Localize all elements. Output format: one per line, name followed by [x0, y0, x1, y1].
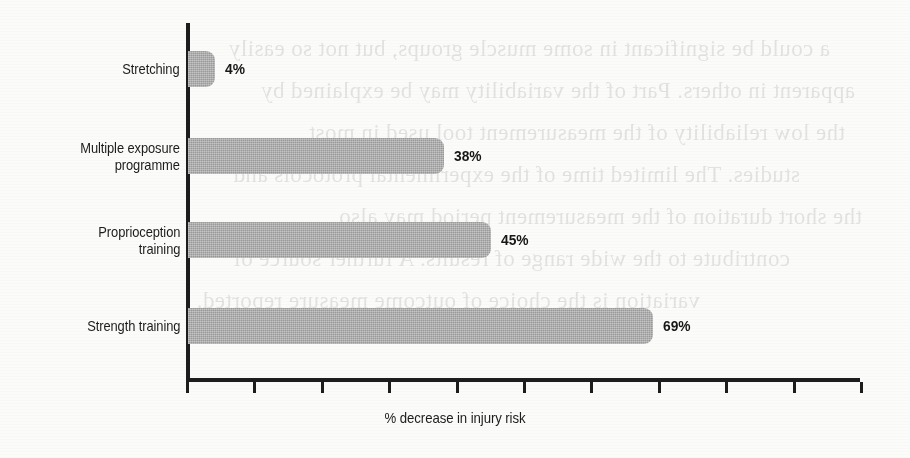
x-axis-tick [793, 382, 796, 393]
x-axis-tick [388, 382, 391, 393]
bar[interactable] [188, 51, 215, 87]
x-axis-tick [860, 382, 863, 393]
bar[interactable] [188, 308, 653, 344]
bar[interactable] [188, 138, 444, 174]
bar-category-label: Strength training [87, 317, 180, 334]
bar-category-label: Multiple exposure programme [80, 139, 180, 173]
x-axis-tick [456, 382, 459, 393]
bar-value-label: 4% [225, 60, 245, 77]
bar-value-label: 69% [663, 317, 691, 334]
x-axis-tick [186, 382, 189, 393]
bar-value-label: 45% [501, 231, 529, 248]
bar-category-label: Proprioception training [98, 223, 180, 257]
bar-chart: Stretching4%Multiple exposure programme3… [0, 0, 910, 458]
x-axis-tick [590, 382, 593, 393]
x-axis-tick [658, 382, 661, 393]
chart-page: a could be significant in some muscle gr… [0, 0, 910, 458]
x-axis-tick [321, 382, 324, 393]
bar-value-label: 38% [454, 147, 482, 164]
x-axis-tick [725, 382, 728, 393]
x-axis-title: % decrease in injury risk [0, 409, 910, 426]
x-axis-tick [523, 382, 526, 393]
bar[interactable] [188, 222, 491, 258]
x-axis-title-text: % decrease in injury risk [385, 409, 526, 426]
x-axis-tick [253, 382, 256, 393]
bar-category-label: Stretching [123, 60, 180, 77]
